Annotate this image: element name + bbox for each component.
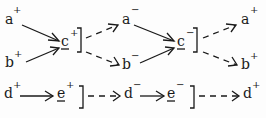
svg-text:b: b <box>241 56 250 72</box>
arrow-d-minus-to-e-minus <box>140 91 164 101</box>
arrow-e-minus-to-d-plus <box>199 91 239 101</box>
node-b-plus-2: b + <box>241 50 258 72</box>
node-a-plus-1: a + <box>5 4 21 27</box>
arrow-b-minus-to-c-minus <box>140 47 174 63</box>
arrow-c-plus-to-b-minus <box>86 52 119 66</box>
svg-text:−: − <box>176 79 184 90</box>
svg-text:b: b <box>122 56 131 72</box>
node-c-minus: c − <box>177 27 197 52</box>
svg-text:+: + <box>14 48 22 59</box>
svg-text:e: e <box>167 85 175 101</box>
node-d-minus: d − <box>124 79 141 101</box>
arrow-c-plus-to-a-minus <box>86 24 118 38</box>
svg-text:+: + <box>66 79 74 90</box>
arrow-b-plus-to-c-plus <box>26 47 59 62</box>
arrow-c-minus-to-b-plus <box>203 52 237 66</box>
bracket-e-minus <box>190 86 194 108</box>
svg-text:d: d <box>4 85 13 101</box>
node-d-plus-2: d + <box>243 79 260 101</box>
svg-text:d: d <box>243 85 252 101</box>
svg-text:e: e <box>57 85 65 101</box>
node-e-plus: e + <box>57 79 83 108</box>
svg-text:c: c <box>61 33 69 49</box>
svg-text:−: − <box>131 50 139 61</box>
node-a-minus: a − <box>122 4 139 27</box>
svg-text:+: + <box>13 4 21 15</box>
node-c-plus: c + <box>61 27 81 52</box>
svg-text:−: − <box>133 79 141 90</box>
node-a-plus-2: a + <box>241 4 258 27</box>
svg-text:+: + <box>250 4 258 15</box>
reaction-diagram: a + b + c + a − b − c − a + b + <box>0 0 266 118</box>
svg-text:+: + <box>250 50 258 61</box>
svg-text:+: + <box>252 79 260 90</box>
svg-text:+: + <box>13 79 21 90</box>
svg-text:−: − <box>131 4 139 15</box>
svg-text:b: b <box>5 54 14 70</box>
arrow-c-minus-to-a-plus <box>203 24 236 38</box>
svg-text:a: a <box>122 11 130 27</box>
bracket-e-plus <box>79 86 83 108</box>
node-b-minus: b − <box>122 50 139 72</box>
node-d-plus-1: d + <box>4 79 21 101</box>
svg-text:a: a <box>241 11 249 27</box>
arrow-a-plus-to-c-plus <box>22 25 59 41</box>
arrow-e-plus-to-d-minus <box>88 91 120 101</box>
node-e-minus: e − <box>167 79 194 108</box>
arrow-a-minus-to-c-minus <box>134 25 174 41</box>
arrow-d-plus-to-e-plus <box>20 91 53 101</box>
svg-text:c: c <box>177 33 185 49</box>
node-b-plus-1: b + <box>5 48 22 70</box>
svg-text:d: d <box>124 85 133 101</box>
